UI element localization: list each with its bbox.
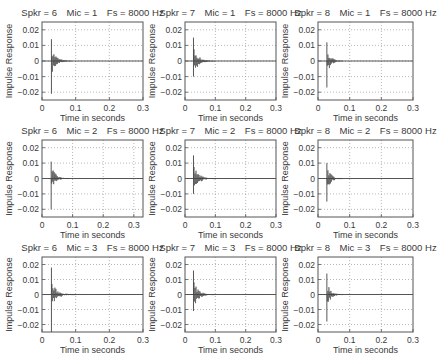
x-tick-labels: 00.10.20.3 [316, 214, 420, 230]
x-tick-label: 0.1 [209, 335, 221, 345]
y-axis-label: Impulse Response [280, 257, 290, 332]
x-axis-label: Time in seconds [333, 345, 399, 355]
y-tick-label: −0.02 [17, 87, 39, 97]
y-tick-labels: 0.020.010−0.01−0.02 [160, 25, 188, 97]
y-axis-label: Impulse Response [280, 141, 290, 216]
impulse-response-trace [318, 274, 413, 322]
subplot-title: Spkr = 8 Mic = 1 Fs = 8000 Hz [294, 7, 437, 18]
impulse-response-trace [42, 162, 143, 210]
y-tick-label: −0.01 [17, 305, 39, 315]
y-tick-label: 0.01 [22, 275, 39, 285]
y-tick-label: −0.01 [17, 189, 39, 199]
x-tick-label: 0.1 [344, 220, 356, 230]
x-tick-label: 0.1 [70, 103, 82, 113]
x-tick-label: 0.1 [209, 220, 221, 230]
y-tick-label: 0 [34, 56, 39, 66]
y-tick-label: 0.02 [298, 25, 315, 35]
x-tick-label: 0.3 [407, 335, 419, 345]
y-tick-label: −0.02 [293, 204, 315, 214]
y-axis-label: Impulse Response [147, 24, 157, 99]
subplot-title: Spkr = 6 Mic = 2 Fs = 8000 Hz [21, 125, 164, 136]
subplot-title: Spkr = 6 Mic = 3 Fs = 8000 Hz [21, 242, 164, 253]
x-axis-label: Time in seconds [60, 345, 126, 355]
x-tick-labels: 00.10.20.3 [183, 214, 283, 230]
y-tick-labels: 0.020.010−0.01−0.02 [17, 25, 45, 97]
y-tick-label: 0.01 [298, 40, 315, 50]
x-tick-label: 0 [183, 220, 188, 230]
y-tick-label: 0.01 [165, 275, 182, 285]
x-tick-label: 0 [40, 103, 45, 113]
y-tick-label: −0.01 [160, 305, 182, 315]
y-tick-labels: 0.020.010−0.01−0.02 [17, 143, 45, 215]
y-tick-label: 0.01 [298, 275, 315, 285]
x-tick-labels: 00.10.20.3 [40, 214, 140, 230]
y-axis-label: Impulse Response [4, 24, 14, 99]
subplot-spkr-7-mic-3: Spkr = 7 Mic = 3 Fs = 8000 Hz0.020.010−0… [147, 242, 302, 355]
y-axis-label: Impulse Response [147, 257, 157, 332]
subplot-title: Spkr = 8 Mic = 2 Fs = 8000 Hz [294, 125, 437, 136]
y-tick-labels: 0.020.010−0.01−0.02 [160, 260, 188, 330]
impulse-response-figure: Spkr = 6 Mic = 1 Fs = 8000 Hz0.020.010−0… [0, 0, 439, 360]
x-tick-label: 0 [316, 335, 321, 345]
y-tick-label: 0.01 [22, 158, 39, 168]
y-tick-label: −0.02 [160, 87, 182, 97]
x-tick-label: 0.3 [270, 103, 282, 113]
x-tick-label: 0 [316, 220, 321, 230]
y-tick-labels: 0.020.010−0.01−0.02 [17, 260, 45, 330]
x-tick-labels: 00.10.20.3 [40, 329, 150, 345]
y-tick-label: −0.01 [160, 72, 182, 82]
x-axis-label: Time in seconds [198, 113, 264, 123]
x-tick-label: 0.3 [128, 220, 140, 230]
y-tick-label: 0.01 [22, 40, 39, 50]
y-axis-label: Impulse Response [147, 141, 157, 216]
y-tick-label: 0.01 [165, 158, 182, 168]
x-tick-label: 0.3 [407, 220, 419, 230]
subplot-title: Spkr = 7 Mic = 2 Fs = 8000 Hz [159, 125, 302, 136]
y-tick-label: 0.01 [165, 40, 182, 50]
y-tick-label: −0.02 [293, 87, 315, 97]
x-tick-label: 0.1 [344, 335, 356, 345]
y-axis-label: Impulse Response [280, 24, 290, 99]
y-tick-label: −0.01 [17, 72, 39, 82]
subplot-spkr-8-mic-3: Spkr = 8 Mic = 3 Fs = 8000 Hz0.020.010−0… [280, 242, 437, 355]
x-tick-label: 0.2 [240, 335, 252, 345]
y-tick-label: 0 [34, 290, 39, 300]
impulse-response-trace [185, 271, 276, 312]
x-tick-labels: 00.10.20.3 [40, 97, 150, 113]
y-tick-label: 0.02 [298, 260, 315, 270]
subplot-spkr-6-mic-1: Spkr = 6 Mic = 1 Fs = 8000 Hz0.020.010−0… [4, 7, 164, 123]
x-tick-label: 0.2 [375, 103, 387, 113]
subplot-spkr-7-mic-2: Spkr = 7 Mic = 2 Fs = 8000 Hz0.020.010−0… [147, 125, 302, 240]
subplot-spkr-8-mic-2: Spkr = 8 Mic = 2 Fs = 8000 Hz0.020.010−0… [280, 125, 437, 240]
x-tick-label: 0 [183, 103, 188, 113]
y-tick-label: 0 [310, 174, 315, 184]
y-tick-label: −0.01 [293, 189, 315, 199]
figure-canvas: Spkr = 6 Mic = 1 Fs = 8000 Hz0.020.010−0… [0, 0, 439, 360]
x-tick-label: 0.2 [97, 220, 109, 230]
y-tick-label: −0.02 [160, 204, 182, 214]
x-tick-labels: 00.10.20.3 [183, 329, 283, 345]
x-axis-label: Time in seconds [60, 230, 126, 240]
y-tick-label: 0.02 [22, 260, 39, 270]
x-axis-label: Time in seconds [198, 230, 264, 240]
x-tick-label: 0.3 [137, 103, 149, 113]
impulse-response-trace [185, 38, 276, 77]
x-tick-label: 0.2 [375, 220, 387, 230]
x-tick-label: 0.2 [103, 335, 115, 345]
impulse-response-trace [42, 268, 143, 333]
y-tick-label: 0.02 [22, 25, 39, 35]
y-tick-label: −0.02 [160, 320, 182, 330]
y-axis-label: Impulse Response [4, 141, 14, 216]
x-tick-label: 0.2 [240, 220, 252, 230]
x-tick-label: 0.1 [70, 335, 82, 345]
y-tick-label: 0 [177, 174, 182, 184]
x-tick-labels: 00.10.20.3 [183, 97, 283, 113]
y-tick-label: −0.01 [160, 189, 182, 199]
subplot-spkr-8-mic-1: Spkr = 8 Mic = 1 Fs = 8000 Hz0.020.010−0… [280, 7, 437, 123]
x-axis-label: Time in seconds [198, 345, 264, 355]
x-tick-label: 0 [40, 335, 45, 345]
y-tick-label: 0 [310, 290, 315, 300]
x-tick-labels: 00.10.20.3 [316, 97, 420, 113]
subplot-spkr-6-mic-3: Spkr = 6 Mic = 3 Fs = 8000 Hz0.020.010−0… [4, 242, 164, 355]
x-tick-label: 0.2 [375, 335, 387, 345]
